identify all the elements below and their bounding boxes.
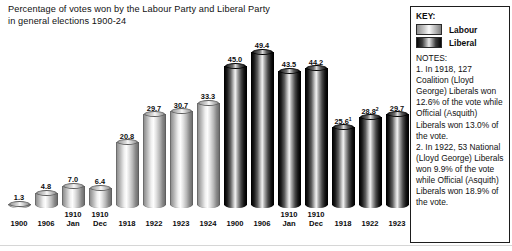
bar-labour-1918[interactable] bbox=[116, 142, 139, 208]
note-2: 2. In 1922, 53 National (Lloyd George) L… bbox=[416, 142, 505, 209]
footer-divider bbox=[0, 245, 512, 246]
bar-slot: 7.01910Jan bbox=[60, 38, 86, 208]
bar-top-ellipse bbox=[90, 185, 111, 191]
x-axis-tick-label: 1906 bbox=[254, 219, 271, 228]
bar-slot: 4.81906 bbox=[33, 38, 59, 208]
bar-liberal-1906[interactable] bbox=[251, 52, 274, 208]
x-axis-tick-label: 1922 bbox=[362, 219, 379, 228]
bar-liberal-1918[interactable] bbox=[332, 127, 355, 208]
legend-item-liberal[interactable]: Liberal bbox=[416, 37, 505, 48]
x-axis-tick-label: 1923 bbox=[389, 219, 406, 228]
bar-top-ellipse bbox=[279, 68, 300, 74]
bar-slot: 44.21910Dec bbox=[303, 38, 329, 208]
bar-liberal-1923[interactable] bbox=[386, 114, 409, 208]
bar-labour-1910-Jan[interactable] bbox=[62, 186, 85, 208]
bar-slot: 28.821922 bbox=[357, 38, 383, 208]
bar-slot: 29.71923 bbox=[384, 38, 410, 208]
bar-liberal-1922[interactable] bbox=[359, 117, 382, 208]
bar-top-ellipse bbox=[117, 139, 138, 145]
x-axis-tick-label: 1922 bbox=[146, 219, 163, 228]
bar-top-ellipse bbox=[333, 124, 354, 130]
bar-labour-1922[interactable] bbox=[143, 114, 166, 208]
bar-labour-1923[interactable] bbox=[170, 111, 193, 208]
x-axis-tick-label: 1924 bbox=[200, 219, 217, 228]
bar-slot: 25.611918 bbox=[330, 38, 356, 208]
key-heading: KEY: bbox=[416, 11, 505, 22]
footnote-marker: 1 bbox=[349, 115, 352, 121]
x-axis-tick-label: 1900 bbox=[11, 219, 28, 228]
bar-top-ellipse bbox=[225, 63, 246, 69]
bar-top-ellipse bbox=[306, 65, 327, 71]
bar-labour-1910-Dec[interactable] bbox=[89, 188, 112, 208]
bar-slot: 29.71922 bbox=[141, 38, 167, 208]
bar-slot: 6.41910Dec bbox=[87, 38, 113, 208]
chart-container: Percentage of votes won by the Labour Pa… bbox=[0, 0, 512, 251]
bar-slot: 33.31924 bbox=[195, 38, 221, 208]
x-axis-tick-sublabel: Dec bbox=[92, 219, 109, 228]
x-axis-tick-sublabel: Dec bbox=[308, 219, 325, 228]
bar-slot: 1.31900 bbox=[6, 38, 32, 208]
x-axis-tick-label: 1910Jan bbox=[65, 210, 82, 228]
bar-slot: 49.41906 bbox=[249, 38, 275, 208]
bar-slot: 20.81918 bbox=[114, 38, 140, 208]
bar-top-ellipse bbox=[63, 183, 84, 189]
bar-slot: 43.51910Jan bbox=[276, 38, 302, 208]
bar-slot: 45.01900 bbox=[222, 38, 248, 208]
legend-item-labour[interactable]: Labour bbox=[416, 24, 505, 35]
bar-group-labour: 1.319004.819067.01910Jan6.41910Dec20.819… bbox=[6, 38, 222, 208]
bar-top-ellipse bbox=[36, 190, 57, 196]
bar-top-ellipse bbox=[9, 201, 30, 207]
x-axis-tick-sublabel: Jan bbox=[281, 219, 298, 228]
bar-top-ellipse bbox=[387, 111, 408, 117]
bar-top-ellipse bbox=[198, 100, 219, 106]
bar-group-liberal: 45.0190049.4190643.51910Jan44.21910Dec25… bbox=[222, 38, 438, 208]
bar-slot: 30.71923 bbox=[168, 38, 194, 208]
x-axis-tick-label: 1910Jan bbox=[281, 210, 298, 228]
x-axis-tick-label: 1918 bbox=[335, 219, 352, 228]
bar-labour-1906[interactable] bbox=[35, 193, 58, 208]
bar-labour-1900[interactable] bbox=[8, 204, 31, 208]
bar-liberal-1900[interactable] bbox=[224, 66, 247, 208]
key-and-notes-panel: KEY: Labour Liberal NOTES: 1. In 1918, 1… bbox=[410, 6, 510, 243]
legend-swatch-labour-icon bbox=[416, 24, 442, 35]
x-axis-tick-label: 1910Dec bbox=[308, 210, 325, 228]
plot-area: 1.319004.819067.01910Jan6.41910Dec20.819… bbox=[0, 16, 406, 230]
bar-top-ellipse bbox=[171, 108, 192, 114]
x-axis-tick-label: 1906 bbox=[38, 219, 55, 228]
x-axis-tick-sublabel: Jan bbox=[65, 219, 82, 228]
bar-top-ellipse bbox=[144, 111, 165, 117]
bar-top-ellipse bbox=[360, 114, 381, 120]
x-axis-tick-label: 1918 bbox=[119, 219, 136, 228]
legend-label-labour: Labour bbox=[449, 25, 477, 35]
chart-title-line-1: Percentage of votes won by the Labour Pa… bbox=[8, 3, 348, 15]
bar-labour-1924[interactable] bbox=[197, 103, 220, 208]
bar-liberal-1910-Jan[interactable] bbox=[278, 71, 301, 208]
bar-top-ellipse bbox=[252, 49, 273, 55]
legend-label-liberal: Liberal bbox=[449, 38, 476, 48]
notes-heading: NOTES: bbox=[416, 53, 505, 64]
x-axis-tick-label: 1923 bbox=[173, 219, 190, 228]
footnote-marker: 2 bbox=[376, 105, 379, 111]
note-1: 1. In 1918, 127 Coalition (Lloyd George)… bbox=[416, 64, 505, 142]
legend-swatch-liberal-icon bbox=[416, 37, 442, 48]
bar-liberal-1910-Dec[interactable] bbox=[305, 68, 328, 208]
x-axis-tick-label: 1910Dec bbox=[92, 210, 109, 228]
x-axis-tick-label: 1900 bbox=[227, 219, 244, 228]
